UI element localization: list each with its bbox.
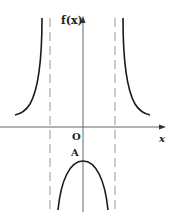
y-axis-label: f(x) [61, 14, 83, 27]
x-axis-label: x [158, 133, 166, 144]
origin-label: O [72, 131, 81, 142]
right-upper-branch [123, 18, 150, 115]
left-upper-branch [15, 18, 42, 115]
function-graph: f(x) x O A [0, 0, 176, 216]
point-a-label: A [70, 147, 79, 158]
x-axis-arrow-icon [159, 125, 166, 130]
